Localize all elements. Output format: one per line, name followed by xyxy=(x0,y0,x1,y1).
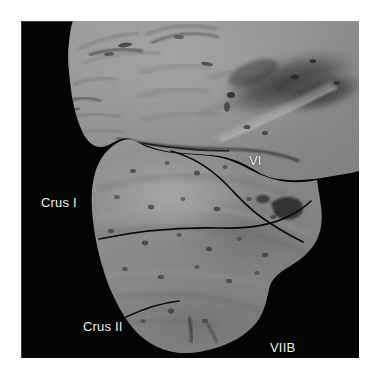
cerebellum-section-image xyxy=(21,21,359,358)
figure-root: VI Crus I Crus II VIIB xyxy=(0,0,375,378)
label-lobule-viib: VIIB xyxy=(270,341,295,354)
label-crus-i: Crus I xyxy=(41,196,77,209)
label-crus-ii: Crus II xyxy=(83,320,123,333)
photograph-plate: VI Crus I Crus II VIIB xyxy=(21,21,359,358)
label-lobule-vi: VI xyxy=(249,154,262,167)
